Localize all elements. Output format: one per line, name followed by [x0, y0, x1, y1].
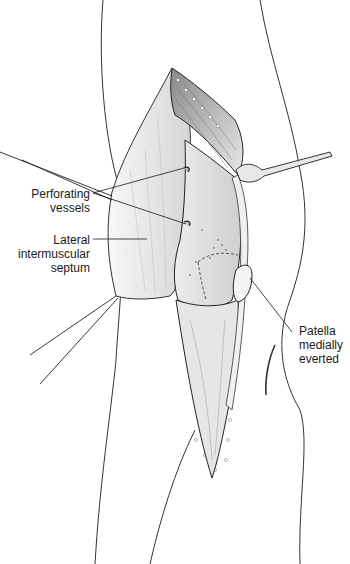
- retractor-instrument: [236, 152, 332, 182]
- label-patella-medially-everted: Patella medially everted: [299, 324, 350, 366]
- patella: [233, 265, 252, 302]
- label-line: Patella: [299, 324, 350, 338]
- label-line: vessels: [20, 201, 90, 215]
- label-line: medially: [299, 338, 350, 352]
- label-line: septum: [6, 261, 90, 275]
- label-line: everted: [299, 352, 350, 366]
- label-perforating-vessels: Perforating vessels: [20, 187, 90, 215]
- label-lateral-intermuscular-septum: Lateral intermuscular septum: [6, 233, 90, 275]
- label-line: Lateral: [6, 233, 90, 247]
- label-line: intermuscular: [6, 247, 90, 261]
- knee-surgical-illustration: [0, 0, 350, 564]
- label-line: Perforating: [20, 187, 90, 201]
